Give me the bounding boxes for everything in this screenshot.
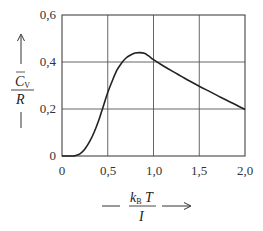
y-tick: 0,6 (40, 7, 57, 22)
x-tick: 1,5 (191, 163, 207, 178)
x-tick: 0 (59, 163, 66, 178)
y-tick: 0,2 (40, 101, 56, 116)
y-label-denominator: R (15, 92, 25, 107)
chart: 0 0,2 0,4 0,6 0 0,5 1,0 1,5 2,0 CV R kB … (0, 0, 263, 231)
grid (62, 15, 245, 156)
x-tick: 1,0 (146, 163, 162, 178)
x-tick: 2,0 (237, 163, 253, 178)
y-label-numerator: CV (15, 74, 30, 90)
y-tick: 0 (50, 148, 57, 163)
x-tick: 0,5 (100, 163, 116, 178)
y-tick: 0,4 (40, 54, 57, 69)
x-label-denominator: I (138, 209, 145, 224)
x-label-numerator: kB T (130, 190, 154, 206)
y-axis-ticks: 0 0,2 0,4 0,6 (40, 7, 57, 163)
y-axis-label: CV R (11, 34, 34, 128)
x-axis-label: kB T I (102, 190, 191, 224)
x-axis-ticks: 0 0,5 1,0 1,5 2,0 (59, 163, 253, 178)
